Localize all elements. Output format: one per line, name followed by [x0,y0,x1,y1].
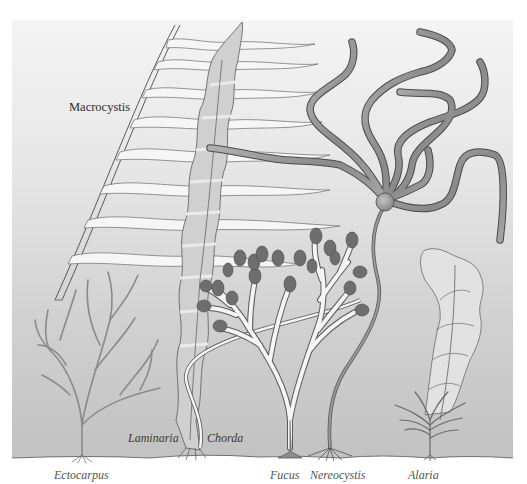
label-macrocystis: Macrocystis [69,101,130,114]
label-laminaria: Laminaria [128,432,179,444]
label-ectocarpus: Ectocarpus [54,469,109,481]
label-fucus: Fucus [270,469,299,481]
label-nereocystis: Nereocystis [310,469,366,481]
label-alaria: Alaria [408,469,439,481]
seaweed-illustration [0,0,527,484]
label-chorda: Chorda [207,432,243,444]
